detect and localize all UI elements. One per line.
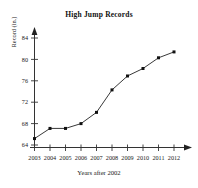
y-axis xyxy=(32,27,38,148)
x-tick-label: 2003 xyxy=(28,154,40,161)
y-axis-tick-labels: 64 68 72 76 80 84 xyxy=(22,34,28,148)
data-point xyxy=(95,111,98,114)
y-tick-label: 64 xyxy=(22,141,28,148)
data-point xyxy=(173,50,176,53)
x-tick-label: 2011 xyxy=(152,154,164,161)
data-point xyxy=(33,137,36,140)
y-axis-title: Record (in.) xyxy=(10,2,17,62)
y-tick-label: 84 xyxy=(22,34,28,41)
data-point xyxy=(111,88,114,91)
y-tick-label: 76 xyxy=(22,77,28,84)
x-tick-label: 2012 xyxy=(168,154,180,161)
data-point xyxy=(157,56,160,59)
x-axis xyxy=(30,145,192,151)
x-tick-label: 2007 xyxy=(90,154,102,161)
chart-plot-area: 64 68 72 76 80 84 2003 2004 2005 2006 xyxy=(0,0,198,188)
y-tick-label: 80 xyxy=(22,56,28,63)
x-axis-tick-labels: 2003 2004 2005 2006 2007 2008 2009 2010 … xyxy=(28,154,180,161)
data-point xyxy=(64,127,67,130)
data-point xyxy=(80,122,83,125)
x-tick-label: 2006 xyxy=(75,154,87,161)
x-axis-title: Years after 2002 xyxy=(0,169,198,176)
data-point xyxy=(126,74,129,77)
data-series-line xyxy=(35,52,175,139)
x-tick-label: 2009 xyxy=(121,154,133,161)
data-point xyxy=(142,67,145,70)
chart-container: High Jump Records 64 68 72 76 80 xyxy=(0,0,198,188)
x-tick-label: 2004 xyxy=(44,154,56,161)
x-tick-label: 2010 xyxy=(137,154,149,161)
data-series-markers xyxy=(33,50,176,140)
y-tick-label: 68 xyxy=(22,120,28,127)
x-tick-label: 2008 xyxy=(106,154,118,161)
x-tick-label: 2005 xyxy=(59,154,71,161)
data-point xyxy=(49,127,52,130)
y-tick-label: 72 xyxy=(22,98,28,105)
